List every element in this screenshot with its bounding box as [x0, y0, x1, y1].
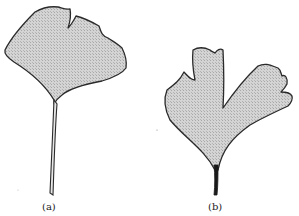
- stray-speck: [18, 190, 19, 191]
- leaf-b-blade: [165, 48, 292, 170]
- panel-label-b: (b): [208, 202, 222, 212]
- stray-speck: [156, 129, 157, 130]
- leaf-a-blade: [5, 7, 126, 104]
- leaf-a-petiole: [50, 100, 57, 195]
- leaf-b: [165, 48, 292, 195]
- leaf-b-petiole: [214, 165, 218, 195]
- figure-canvas: [0, 0, 299, 216]
- panel-label-a: (a): [42, 202, 56, 212]
- leaf-a: [5, 7, 126, 195]
